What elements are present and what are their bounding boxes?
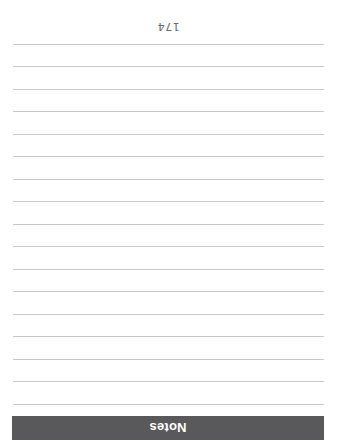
rule-line <box>13 292 324 293</box>
rule-line <box>13 404 324 405</box>
rule-line <box>13 224 324 225</box>
ruled-lines-area <box>0 0 337 442</box>
rule-line <box>13 337 324 338</box>
rule-line <box>13 112 324 113</box>
rule-line <box>13 314 324 315</box>
rule-line <box>13 202 324 203</box>
rule-line <box>13 179 324 180</box>
rule-line <box>13 134 324 135</box>
rule-line <box>13 157 324 158</box>
rule-line <box>13 44 324 45</box>
rule-line <box>13 247 324 248</box>
rule-line <box>13 359 324 360</box>
rule-line <box>13 89 324 90</box>
rule-line <box>13 67 324 68</box>
rule-line <box>13 382 324 383</box>
rule-line <box>13 269 324 270</box>
page-number: 174 <box>0 20 337 33</box>
notebook-page: Notes 174 <box>0 0 337 442</box>
